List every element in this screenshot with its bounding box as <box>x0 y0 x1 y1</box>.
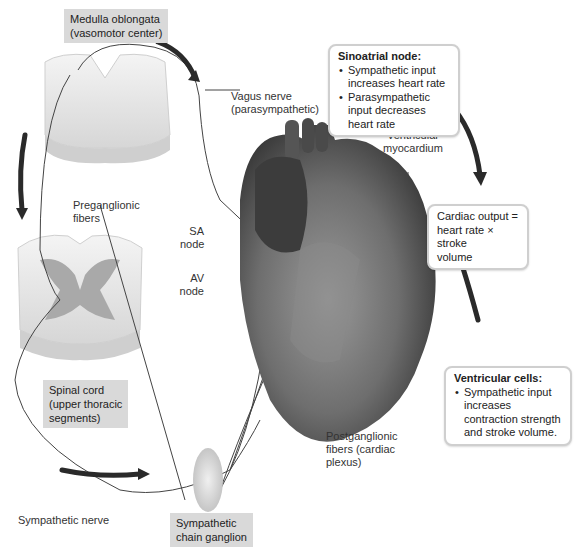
co-line3: volume <box>437 251 519 265</box>
sympathetic-nerve-label: Sympathetic nerve <box>18 514 109 527</box>
sc-line3: segments) <box>49 411 122 425</box>
ventricular-cells-callout: Ventricular cells: Sympathetic input inc… <box>444 366 572 446</box>
vagus-nerve-label: Vagus nerve (parasympathetic) <box>231 90 319 116</box>
medulla-line2: (vasomotor center) <box>70 26 162 40</box>
vm-line2: myocardium <box>383 142 443 155</box>
diagram-artwork <box>0 0 578 557</box>
av-line1: AV <box>176 272 204 285</box>
spinal-cord-label: Spinal cord (upper thoracic segments) <box>43 380 128 428</box>
sc-line1: Spinal cord <box>49 383 122 397</box>
medulla-slice <box>45 54 170 163</box>
chain-ganglion-label: Sympathetic chain ganglion <box>170 513 253 547</box>
medulla-line1: Medulla oblongata <box>70 12 162 26</box>
heart-illustration <box>240 118 436 442</box>
preganglionic-label: Preganglionic fibers <box>73 199 140 225</box>
medulla-label: Medulla oblongata (vasomotor center) <box>64 9 168 43</box>
cg-line2: chain ganglion <box>176 530 247 544</box>
sinoatrial-title: Sinoatrial node: <box>338 50 450 64</box>
spinal-cord-slice <box>18 235 142 360</box>
vagus-line2: (parasympathetic) <box>231 103 319 116</box>
sinoatrial-item: Sympathetic input increases heart rate <box>348 64 450 91</box>
co-line2: heart rate × stroke <box>437 224 519 251</box>
ventricular-cells-list: Sympathetic input increases contraction … <box>454 386 562 440</box>
sinoatrial-list: Sympathetic input increases heart rate P… <box>338 64 450 132</box>
av-node-label: AV node <box>176 272 204 298</box>
co-line1: Cardiac output = <box>437 210 519 224</box>
pg-line3: plexus) <box>326 456 398 469</box>
sinoatrial-callout: Sinoatrial node: Sympathetic input incre… <box>328 44 460 137</box>
preganglionic-line1: Preganglionic <box>73 199 140 212</box>
av-line2: node <box>176 285 204 298</box>
sa-line1: SA <box>180 225 204 238</box>
pg-line2: fibers (cardiac <box>326 443 398 456</box>
postganglionic-label: Postganglionic fibers (cardiac plexus) <box>326 430 398 469</box>
ventricular-cells-item: Sympathetic input increases contraction … <box>464 386 562 440</box>
sympathetic-ganglion <box>193 448 223 512</box>
pg-line1: Postganglionic <box>326 430 398 443</box>
vagus-line1: Vagus nerve <box>231 90 319 103</box>
sa-node-label: SA node <box>180 225 204 251</box>
cg-line1: Sympathetic <box>176 516 247 530</box>
sa-line2: node <box>180 238 204 251</box>
sinoatrial-item: Parasympathetic input decreases heart ra… <box>348 91 450 132</box>
preganglionic-line2: fibers <box>73 212 140 225</box>
sc-line2: (upper thoracic <box>49 397 122 411</box>
ventricular-cells-title: Ventricular cells: <box>454 372 562 386</box>
cardiac-output-callout: Cardiac output = heart rate × stroke vol… <box>427 204 529 270</box>
